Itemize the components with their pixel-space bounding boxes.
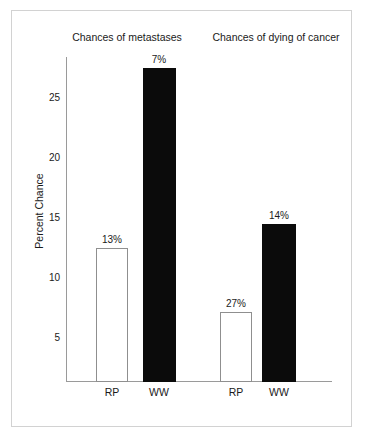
y-tick-label-5: 5 <box>38 332 60 343</box>
group-header-metastases: Chances of metastases <box>47 31 207 44</box>
bar-dying-rp <box>220 312 252 382</box>
bar-value-metastases-rp: 13% <box>92 234 132 246</box>
bar-metastases-ww <box>143 68 176 382</box>
chart-figure: Chances of metastases Chances of dying o… <box>0 0 365 437</box>
x-tick-label-dying-ww: WW <box>259 386 299 399</box>
group-header-dying-of-cancer: Chances of dying of cancer <box>196 31 356 44</box>
figure-frame <box>11 10 352 427</box>
bar-value-dying-ww: 14% <box>259 210 299 222</box>
bar-value-metastases-ww: 7% <box>139 54 179 66</box>
x-tick-label-metastases-rp: RP <box>92 386 132 399</box>
y-tick-label-20: 20 <box>38 152 60 163</box>
y-tick-label-15: 15 <box>38 212 60 223</box>
y-tick-label-25: 25 <box>38 92 60 103</box>
x-tick-label-dying-rp: RP <box>216 386 256 399</box>
bar-dying-ww <box>262 224 296 382</box>
y-axis-title: Percent Chance <box>33 151 45 271</box>
y-tick-label-10: 10 <box>38 272 60 283</box>
bar-metastases-rp <box>96 248 128 382</box>
y-axis-line <box>66 57 67 382</box>
bar-value-dying-rp: 27% <box>216 298 256 310</box>
x-tick-label-metastases-ww: WW <box>139 386 179 399</box>
